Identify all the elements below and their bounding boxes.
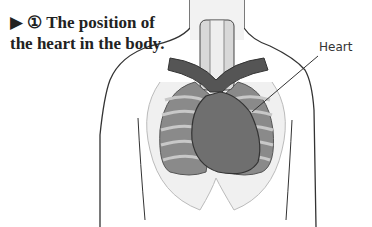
arrow-marker-icon: ▶ <box>10 13 23 32</box>
caption-line-1: The position of <box>46 13 155 32</box>
figure-number: ① <box>27 13 42 32</box>
figure-caption: ▶ ① The position of the heart in the bod… <box>10 12 164 54</box>
caption-line-2: the heart in the body. <box>10 33 164 54</box>
heart-label: Heart <box>319 40 352 54</box>
